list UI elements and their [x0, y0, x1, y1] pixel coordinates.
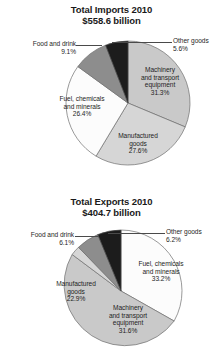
- imports-label-food-and-drink-value: 9.1%: [4, 48, 76, 56]
- imports-label-manufactured-goods: Manufactured goods 27.6%: [104, 132, 172, 155]
- imports-label-machinery-value: 31.3%: [129, 89, 191, 97]
- imports-label-machinery-line2: and transport: [129, 74, 191, 82]
- imports-label-manufactured-line2: goods: [104, 140, 172, 148]
- exports-label-machinery-line3: equipment: [94, 319, 162, 327]
- imports-label-fuel-line2: and minerals: [47, 103, 117, 111]
- exports-label-other-goods-value: 6.2%: [166, 236, 216, 244]
- imports-label-manufactured-line1: Manufactured: [104, 132, 172, 140]
- imports-label-other-goods: Other goods 5.6%: [173, 37, 221, 52]
- exports-pie-chart: Total Exports 2010 $404.7 billion Other …: [0, 176, 223, 352]
- exports-label-fuel-line2: and minerals: [124, 268, 198, 276]
- exports-label-machinery-and-transport-equipment: Machinery and transport equipment 31.6%: [94, 304, 162, 334]
- exports-label-machinery-line1: Machinery: [94, 304, 162, 312]
- exports-label-manufactured-line1: Manufactured: [42, 280, 110, 288]
- exports-label-other-goods: Other goods 6.2%: [166, 228, 216, 243]
- exports-label-food-and-drink-value: 6.1%: [2, 239, 74, 247]
- exports-other-goods-leader-line: [108, 233, 165, 234]
- imports-label-other-goods-value: 5.6%: [173, 45, 221, 53]
- imports-label-fuel-chemicals-and-minerals: Fuel, chemicals and minerals 26.4%: [47, 95, 117, 118]
- exports-label-other-goods-text: Other goods: [166, 228, 216, 236]
- imports-label-other-goods-text: Other goods: [173, 37, 221, 45]
- exports-label-manufactured-line2: goods: [42, 288, 110, 296]
- exports-label-fuel-line1: Fuel, chemicals: [124, 260, 198, 268]
- imports-label-manufactured-value: 27.6%: [104, 147, 172, 155]
- exports-label-food-and-drink: Food and drink 6.1%: [2, 231, 74, 246]
- imports-pie-chart: Total Imports 2010 $558.6 billion Other …: [0, 0, 223, 176]
- exports-label-fuel-chemicals-and-minerals: Fuel, chemicals and minerals 33.2%: [124, 260, 198, 283]
- imports-label-food-and-drink-text: Food and drink: [4, 40, 76, 48]
- exports-label-fuel-value: 33.2%: [124, 275, 198, 283]
- imports-food-and-drink-leader-line: [76, 45, 102, 46]
- imports-label-fuel-value: 26.4%: [47, 110, 117, 118]
- exports-label-machinery-line2: and transport: [94, 312, 162, 320]
- imports-label-machinery-and-transport-equipment: Machinery and transport equipment 31.3%: [129, 66, 191, 96]
- imports-label-food-and-drink: Food and drink 9.1%: [4, 40, 76, 55]
- imports-label-fuel-line1: Fuel, chemicals: [47, 95, 117, 103]
- imports-label-machinery-line3: equipment: [129, 81, 191, 89]
- exports-food-and-drink-leader-line: [75, 236, 99, 237]
- exports-label-machinery-value: 31.6%: [94, 327, 162, 335]
- imports-label-machinery-line1: Machinery: [129, 66, 191, 74]
- exports-label-manufactured-goods: Manufactured goods 22.9%: [42, 280, 110, 303]
- exports-label-manufactured-value: 22.9%: [42, 295, 110, 303]
- exports-label-food-and-drink-text: Food and drink: [2, 231, 74, 239]
- imports-other-goods-leader-line: [112, 42, 172, 43]
